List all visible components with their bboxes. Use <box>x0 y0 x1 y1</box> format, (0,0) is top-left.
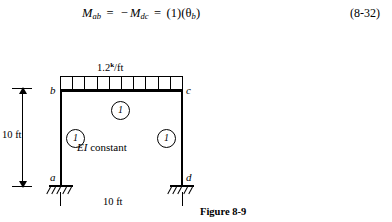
equals-sign-2: = <box>152 6 163 20</box>
moment-mdc-symbol: M <box>130 6 141 20</box>
member-tag-right-column: 1 <box>157 129 176 148</box>
node-label-d: d <box>186 171 192 183</box>
load-cell <box>122 77 134 89</box>
load-cell <box>159 77 171 89</box>
load-cell <box>85 77 97 89</box>
arrow-down-icon <box>19 181 27 188</box>
figure-caption: Figure 8-9 <box>200 206 246 217</box>
textbook-page: Mab = −Mdc = (1)(θb) (8-32) 1.2k/ft <box>0 0 392 222</box>
load-cell <box>171 77 182 89</box>
equation-result-close: ) <box>196 6 200 20</box>
ei-constant-note: EI constant <box>77 141 127 153</box>
column-member-dc <box>181 90 183 186</box>
node-label-b: b <box>50 84 56 96</box>
distributed-load-label: 1.2k/ft <box>97 61 123 73</box>
load-cell <box>146 77 158 89</box>
node-label-c: c <box>186 84 191 96</box>
dimension-label-width: 10 ft <box>103 196 123 207</box>
load-cell <box>61 77 73 89</box>
equation-expression: Mab = −Mdc = (1)(θb) <box>82 6 200 21</box>
dimension-extension-line-right <box>182 192 183 206</box>
beam-member-bc <box>60 90 183 92</box>
load-magnitude: 1.2 <box>97 62 110 73</box>
load-unit-per-foot: /ft <box>114 62 123 73</box>
hatch-mark <box>188 186 193 194</box>
dimension-label-height: 10 ft <box>2 129 22 140</box>
column-member-ab <box>60 90 62 186</box>
moment-mab-subscript: ab <box>93 11 102 21</box>
moment-mdc-subscript: dc <box>141 11 149 21</box>
hatch-mark <box>183 186 188 194</box>
minus-sign: − <box>119 6 130 20</box>
moment-mab-symbol: M <box>82 6 93 20</box>
ei-constant-text: constant <box>87 141 126 153</box>
load-cell <box>98 77 110 89</box>
member-tag-beam: 1 <box>111 101 130 120</box>
distributed-load-box <box>60 76 183 90</box>
load-cell <box>73 77 85 89</box>
hatch-mark <box>67 186 72 194</box>
frame-diagram: 1.2k/ft b c a d 1 1 1 EI constant <box>0 28 392 222</box>
equals-sign-1: = <box>104 6 115 20</box>
load-cell <box>134 77 146 89</box>
dimension-extension-line-left <box>60 192 61 206</box>
equation-number: (8-32) <box>350 6 380 21</box>
load-cell <box>110 77 122 89</box>
hatch-mark <box>62 186 67 194</box>
dimension-line-vertical <box>22 87 24 188</box>
equation-result: (1)(θ <box>166 6 191 20</box>
ei-symbol: EI <box>77 141 87 153</box>
node-label-a: a <box>50 171 56 183</box>
dimension-shaft <box>22 93 23 182</box>
equation-line: Mab = −Mdc = (1)(θb) (8-32) <box>0 6 392 26</box>
